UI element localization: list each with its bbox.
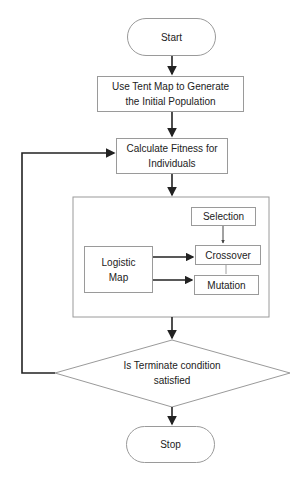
crossover-node: Crossover: [195, 245, 261, 265]
fitness-label: Calculate Fitness for Individuals: [123, 141, 221, 171]
mutation-node: Mutation: [194, 275, 259, 295]
mutation-label: Mutation: [207, 278, 245, 293]
tent-map-node: Use Tent Map to Generate the Initial Pop…: [97, 76, 244, 112]
stop-node: Stop: [126, 426, 215, 463]
start-label: Start: [161, 30, 182, 45]
tent-map-label: Use Tent Map to Generate the Initial Pop…: [106, 79, 235, 109]
decision-node: Is Terminate condition satisfied: [110, 355, 234, 391]
start-node: Start: [127, 18, 216, 56]
fitness-node: Calculate Fitness for Individuals: [116, 138, 228, 174]
crossover-label: Crossover: [205, 248, 251, 263]
stop-label: Stop: [160, 437, 181, 452]
decision-label: Is Terminate condition satisfied: [110, 358, 234, 388]
logistic-map-label: Logistic Map: [99, 255, 138, 285]
selection-label: Selection: [203, 209, 244, 224]
flowchart-connectors: [0, 0, 305, 483]
selection-node: Selection: [191, 207, 256, 226]
logistic-map-node: Logistic Map: [84, 246, 153, 293]
